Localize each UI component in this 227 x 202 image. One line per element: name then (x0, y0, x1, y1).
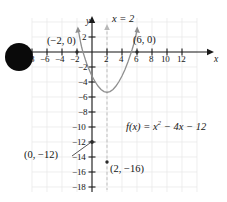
y-tick-label-neg18: −18 (72, 183, 85, 192)
x-tick-label-10: 10 (161, 55, 170, 64)
function-equation-label: f(x) = x2 − 4x − 12 (126, 120, 206, 132)
x-intercept-right-label: (6, 0) (133, 35, 156, 46)
y-axis-label: y (86, 17, 90, 27)
figure-canvas: −8 −6 −4 −2 2 4 6 8 10 12 2 −2 −4 −6 −8 … (0, 0, 227, 202)
curve-right-arrowhead (135, 27, 140, 34)
function-equation-lhs: f(x) = x (126, 121, 158, 132)
y-tick-label-neg10: −10 (72, 123, 85, 132)
vertex-label: (2, −16) (110, 164, 144, 175)
y-tick-label-neg4: −4 (78, 78, 87, 87)
x-tick-label-neg6: −6 (40, 55, 49, 64)
y-axis (89, 16, 96, 192)
x-tick-label-neg4: −4 (55, 55, 64, 64)
x-tick-label-6: 6 (134, 55, 138, 64)
x-tick-label-12: 12 (177, 55, 186, 64)
y-tick-label-neg2: −2 (78, 63, 87, 72)
y-intercept-label: (0, −12) (24, 150, 58, 161)
x-axis-label: x (214, 55, 218, 65)
curve-left-arrowhead (75, 27, 80, 34)
y-tick-label-neg14: −14 (72, 153, 85, 162)
x-tick-label-4: 4 (119, 55, 123, 64)
y-tick-label-neg8: −8 (78, 108, 87, 117)
function-equation-rhs: − 4x − 12 (161, 121, 206, 132)
axis-of-symmetry-label: x = 2 (112, 14, 134, 25)
y-tick-label-neg16: −16 (72, 168, 85, 177)
y-tick-label-neg12: −12 (72, 138, 85, 147)
y-tick-label-2: 2 (82, 33, 86, 42)
y-tick-label-neg6: −6 (78, 93, 87, 102)
pointer-dot[interactable] (5, 43, 33, 71)
x-intercept-left-label: (−2, 0) (47, 36, 76, 47)
x-tick-label-8: 8 (149, 55, 153, 64)
axis-of-symmetry-arrowhead (104, 24, 110, 30)
x-tick-label-2: 2 (104, 55, 108, 64)
